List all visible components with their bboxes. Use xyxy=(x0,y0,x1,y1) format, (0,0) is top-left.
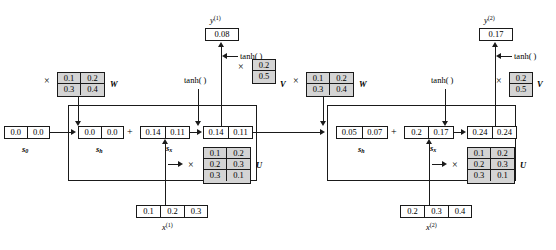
t1-s1-vector: 0.14 0.11 xyxy=(203,126,253,139)
t2-sx-vector: 0.2 0.17 xyxy=(404,126,454,139)
t2-w-cell-0-1: 0.2 xyxy=(330,73,353,84)
t2-sx-cell-1: 0.17 xyxy=(429,127,453,138)
t2-u-input-line xyxy=(432,164,443,165)
t1-s0-label: s0 xyxy=(22,145,28,154)
t2-tanh-state-label: tanh( ) xyxy=(431,76,453,85)
t1-u-cell-1-1: 0.3 xyxy=(227,159,250,170)
t1-s0-to-sh-arrowhead xyxy=(71,129,76,135)
t1-w-cell-0-1: 0.2 xyxy=(81,73,104,84)
t1-matrix-u: 0.1 0.2 0.2 0.3 0.3 0.1 xyxy=(203,147,251,184)
t2-sx-label: sx xyxy=(430,144,436,153)
t1-sx-cell-1: 0.11 xyxy=(166,127,189,138)
t1-s0-cell-1: 0.0 xyxy=(28,127,50,138)
t2-u-cell-1-1: 0.3 xyxy=(491,159,514,170)
t1-u-cell-0-1: 0.2 xyxy=(227,148,250,159)
t1-input-cell-1: 0.2 xyxy=(161,206,185,217)
t1-input-vector: 0.1 0.2 0.3 xyxy=(136,205,208,218)
t2-input-cell-2: 0.4 xyxy=(449,206,471,217)
t1-u-cell-2-0: 0.3 xyxy=(204,170,227,181)
t1-sx-cell-0: 0.14 xyxy=(141,127,166,138)
t1-u-cell-2-1: 0.1 xyxy=(227,170,250,181)
t1-output-vector: 0.08 xyxy=(205,28,239,41)
t2-u-cell-0-0: 0.1 xyxy=(468,148,491,159)
t2-u-cell-2-0: 0.3 xyxy=(468,170,491,181)
t2-input-label: x(2) xyxy=(426,222,437,231)
t2-u-cell-1-0: 0.2 xyxy=(468,159,491,170)
t2-input-up-arrowhead xyxy=(426,139,432,144)
t2-output-arrowhead xyxy=(492,42,498,47)
t1-s1-cell-1: 0.11 xyxy=(229,127,252,138)
t1-multiply-w-symbol: × xyxy=(44,76,50,86)
t1-tanh-state-label: tanh( ) xyxy=(184,76,206,85)
t2-v-cell-0-0: 0.2 xyxy=(510,73,532,84)
t1-tanh-out-line xyxy=(226,56,238,57)
t2-s2-cell-1: 0.24 xyxy=(493,127,516,138)
t2-multiply-u-symbol: × xyxy=(452,160,458,170)
t1-sx-vector: 0.14 0.11 xyxy=(140,126,190,139)
t1-sx-to-s1-arrowhead xyxy=(197,129,202,135)
t2-plus-symbol: + xyxy=(391,127,397,137)
t2-input-cell-1: 0.3 xyxy=(425,206,449,217)
t1-sh-cell-0: 0.0 xyxy=(79,127,102,138)
t1-v-cell-0-0: 0.2 xyxy=(253,60,275,71)
t2-sx-to-s2-arrowhead xyxy=(461,129,466,135)
t1-input-up-arrowhead xyxy=(162,139,168,144)
t2-u-cell-2-1: 0.1 xyxy=(491,170,514,181)
t2-matrix-v: 0.2 0.5 xyxy=(509,72,533,97)
t1-u-cell-1-0: 0.2 xyxy=(204,159,227,170)
t1-input-cell-0: 0.1 xyxy=(137,206,161,217)
t1-sh-vector: 0.0 0.0 xyxy=(78,126,124,139)
t1-sx-label: sx xyxy=(166,144,172,153)
t1-plus-symbol: + xyxy=(127,127,133,137)
t2-tanh-out-label: tanh( ) xyxy=(514,52,536,61)
t1-input-cell-2: 0.3 xyxy=(185,206,207,217)
t1-matrix-u-name: U xyxy=(256,161,262,170)
t2-matrix-u: 0.1 0.2 0.2 0.3 0.3 0.1 xyxy=(467,147,515,184)
t2-sh-vector: 0.05 0.07 xyxy=(336,126,388,139)
t2-output-vector: 0.17 xyxy=(479,28,513,41)
t2-output-cell-0: 0.17 xyxy=(480,29,512,40)
t2-v-cell-1-0: 0.5 xyxy=(510,84,532,95)
t2-input-vector: 0.2 0.3 0.4 xyxy=(400,205,472,218)
t1-sh-cell-1: 0.0 xyxy=(102,127,124,138)
t2-sh-cell-0: 0.05 xyxy=(337,127,363,138)
t1-matrix-w-name: W xyxy=(110,80,118,89)
t2-multiply-w-symbol: × xyxy=(293,76,299,86)
t1-input-label: x(1) xyxy=(162,222,173,231)
t2-sh-cell-1: 0.07 xyxy=(363,127,388,138)
t2-w-cell-1-0: 0.3 xyxy=(307,84,330,95)
t1-u-input-line xyxy=(168,164,179,165)
t1-w-cell-1-0: 0.3 xyxy=(58,84,81,95)
t1-output-label: y(1) xyxy=(210,15,221,24)
t2-input-cell-0: 0.2 xyxy=(401,206,425,217)
t1-output-cell-0: 0.08 xyxy=(206,29,238,40)
t2-w-cell-0-0: 0.1 xyxy=(307,73,330,84)
t2-w-down-arrowhead xyxy=(320,121,326,126)
t1-w-cell-0-0: 0.1 xyxy=(58,73,81,84)
t1-s0-cell-0: 0.0 xyxy=(5,127,28,138)
t1-multiply-u-symbol: × xyxy=(188,160,194,170)
state-link-line xyxy=(253,132,323,133)
t2-sh-label: sh xyxy=(358,145,365,154)
t2-output-label: y(2) xyxy=(484,15,495,24)
t2-multiply-v-symbol: × xyxy=(496,76,502,86)
t1-s1-cell-0: 0.14 xyxy=(204,127,229,138)
t2-matrix-w: 0.1 0.2 0.3 0.4 xyxy=(306,72,354,97)
t2-w-cell-1-1: 0.4 xyxy=(330,84,353,95)
diagram-canvas: 0.08 y(1) tanh( ) × 0.2 0.5 × 0.1 0.2 0.… xyxy=(0,0,556,250)
t1-multiply-v-symbol: × xyxy=(238,62,244,72)
t2-input-up-line xyxy=(429,143,430,205)
t1-matrix-w: 0.1 0.2 0.3 0.4 xyxy=(57,72,105,97)
t1-matrix-v: 0.2 0.5 xyxy=(252,59,276,84)
t2-s2-cell-0: 0.24 xyxy=(468,127,493,138)
t2-u-cell-0-1: 0.2 xyxy=(491,148,514,159)
t1-s0-vector: 0.0 0.0 xyxy=(4,126,50,139)
t2-matrix-v-name: V xyxy=(537,80,543,89)
t2-w-down-line xyxy=(323,97,324,123)
t2-matrix-u-name: U xyxy=(520,161,526,170)
t2-matrix-w-name: W xyxy=(359,80,367,89)
t1-output-arrowhead xyxy=(218,42,224,47)
t1-u-cell-0-0: 0.1 xyxy=(204,148,227,159)
t2-sx-cell-0: 0.2 xyxy=(405,127,429,138)
t2-s2-vector: 0.24 0.24 xyxy=(467,126,517,139)
